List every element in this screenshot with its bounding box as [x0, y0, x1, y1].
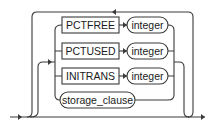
branch-connector	[55, 51, 62, 76]
entry-arrow-icon	[18, 114, 22, 120]
operand-label: integer	[131, 70, 164, 82]
right-branch-rail	[135, 25, 174, 100]
arrow-icon	[123, 22, 127, 28]
right-exit-rail	[174, 62, 189, 117]
inner-entry-arrow-icon	[48, 59, 52, 65]
left-branch-rail	[55, 25, 62, 100]
inner-entry-rail	[30, 62, 55, 117]
arrow-icon	[123, 73, 127, 79]
arrow-icon	[123, 48, 127, 54]
clause-label: storage_clause	[62, 94, 133, 106]
operand-label: integer	[131, 45, 164, 57]
keyword-label: INITRANS	[66, 70, 115, 82]
branch-connector	[168, 51, 174, 76]
exit-arrow-icon	[201, 114, 205, 120]
keyword-label: PCTUSED	[65, 45, 116, 57]
syntax-diagram: PCTFREE integer PCTUSED integer INITRANS…	[0, 0, 214, 126]
loop-arrow-icon	[112, 9, 116, 15]
keyword-label: PCTFREE	[66, 19, 115, 31]
operand-label: integer	[131, 19, 164, 31]
